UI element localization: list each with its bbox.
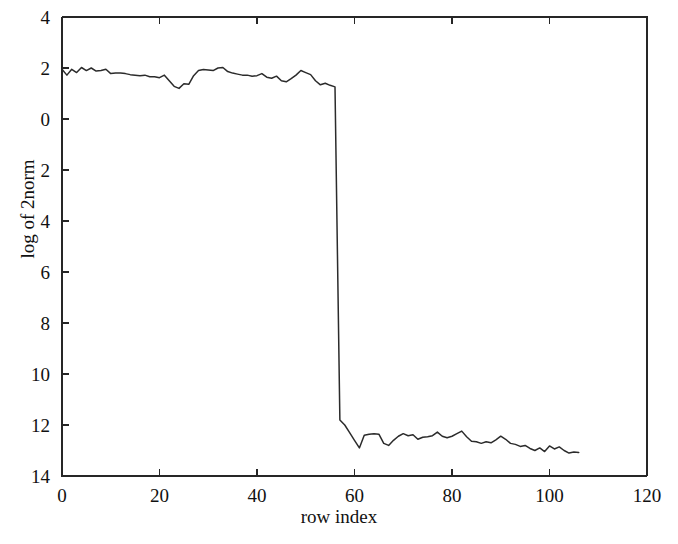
x-tick-label: 0 <box>57 486 67 505</box>
axis-frame <box>62 17 647 476</box>
x-axis-ticks <box>160 17 550 476</box>
y-axis-ticks <box>62 68 69 425</box>
y-axis-title: log of 2norm <box>17 119 39 299</box>
y-tick-label: 10 <box>8 365 50 384</box>
plot-canvas <box>0 0 678 544</box>
x-tick-label: 100 <box>535 486 564 505</box>
y-tick-label: 4 <box>8 8 50 27</box>
x-tick-label: 120 <box>633 486 662 505</box>
y-tick-label: 8 <box>8 314 50 333</box>
x-tick-label: 40 <box>248 486 267 505</box>
data-series-line <box>62 67 579 453</box>
x-tick-label: 80 <box>443 486 462 505</box>
x-tick-label: 60 <box>345 486 364 505</box>
x-tick-label: 20 <box>150 486 169 505</box>
y-tick-label: 14 <box>8 467 50 486</box>
x-axis-title: row index <box>0 506 678 528</box>
y-tick-label: 12 <box>8 416 50 435</box>
y-tick-label: 2 <box>8 59 50 78</box>
chart-figure: 4202468101214 020406080100120 row index … <box>0 0 678 544</box>
